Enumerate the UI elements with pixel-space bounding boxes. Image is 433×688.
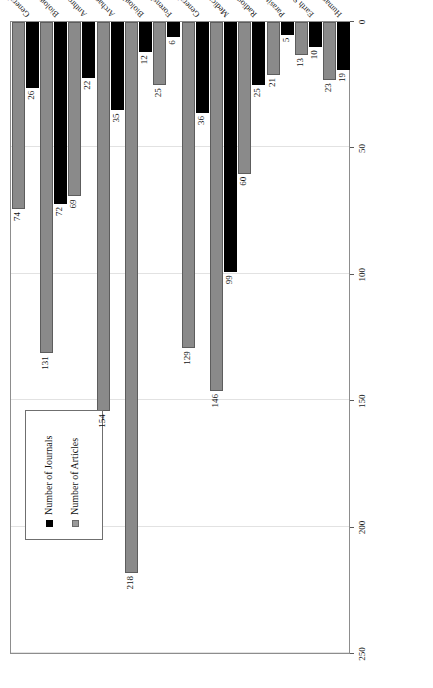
- bar-value-label: 154: [96, 414, 109, 433]
- bar-journals: [281, 22, 294, 35]
- bar-chart-figure: 050100150200250 General ScienceBiology/C…: [0, 0, 433, 688]
- bar-value-label: 35: [110, 113, 123, 132]
- bar-articles: [40, 22, 53, 353]
- x-tick-label: 200: [358, 508, 367, 548]
- bar-journals: [224, 22, 237, 272]
- gridline: [11, 273, 349, 274]
- bar-journals: [309, 22, 322, 47]
- bar-journals: [167, 22, 180, 37]
- bar-value-label: 129: [181, 351, 194, 370]
- bar-value-label: 5: [280, 38, 293, 57]
- bar-journals: [196, 22, 209, 113]
- bar-journals: [26, 22, 39, 88]
- bar-value-label: 6: [166, 40, 179, 59]
- tick-mark: [350, 147, 354, 148]
- legend-swatch-articles-icon: [72, 520, 79, 527]
- x-tick-label: 250: [358, 634, 367, 674]
- bar-articles: [97, 22, 110, 411]
- x-tick-label: 50: [358, 128, 367, 168]
- bar-value-label: 146: [209, 394, 222, 413]
- chart-legend: Number of JournalsNumber of Articles: [25, 410, 103, 540]
- bar-articles: [125, 22, 138, 573]
- legend-label: Number of Articles: [70, 438, 80, 515]
- bar-value-label: 22: [81, 81, 94, 100]
- bar-articles: [68, 22, 81, 196]
- legend-item-articles: Number of Articles: [70, 438, 80, 527]
- bar-value-label: 25: [152, 88, 165, 107]
- bar-value-label: 13: [294, 58, 307, 77]
- legend-swatch-journals-icon: [46, 520, 53, 527]
- category-label: Forensic: [146, 0, 173, 19]
- bar-value-label: 131: [39, 356, 52, 375]
- tick-mark: [350, 274, 354, 275]
- x-tick-label: 150: [358, 381, 367, 421]
- chart-rotation-wrapper: 050100150200250 General ScienceBiology/C…: [0, 0, 433, 688]
- category-label: General Science: [0, 0, 31, 19]
- bar-value-label: 21: [266, 78, 279, 97]
- bar-articles: [182, 22, 195, 348]
- bar-articles: [267, 22, 280, 75]
- tick-mark: [350, 400, 354, 401]
- tick-mark: [350, 527, 354, 528]
- bar-value-label: 25: [251, 88, 264, 107]
- x-tick-label: 100: [358, 255, 367, 295]
- bar-articles: [12, 22, 25, 209]
- tick-mark: [350, 21, 354, 22]
- bar-value-label: 99: [223, 275, 236, 294]
- category-label: Humanities: [309, 0, 343, 19]
- bar-value-label: 72: [53, 207, 66, 226]
- bar-articles: [210, 22, 223, 391]
- bar-value-label: 60: [237, 177, 250, 196]
- bar-articles: [238, 22, 251, 174]
- bar-value-label: 26: [25, 91, 38, 110]
- legend-label: Number of Journals: [44, 436, 54, 515]
- bar-value-label: 74: [11, 212, 24, 231]
- bar-journals: [111, 22, 124, 110]
- bar-value-label: 36: [195, 116, 208, 135]
- legend-item-journals: Number of Journals: [44, 436, 54, 527]
- bar-journals: [82, 22, 95, 78]
- gridline: [11, 652, 349, 653]
- bar-journals: [139, 22, 152, 52]
- bar-articles: [295, 22, 308, 55]
- bar-value-label: 23: [322, 83, 335, 102]
- bar-articles: [153, 22, 166, 85]
- bar-value-label: 10: [308, 50, 321, 69]
- bar-value-label: 218: [124, 576, 137, 595]
- plot-area: [10, 21, 350, 654]
- bar-journals: [54, 22, 67, 204]
- tick-mark: [350, 653, 354, 654]
- x-tick-label: 0: [358, 2, 367, 42]
- bar-articles: [323, 22, 336, 80]
- bar-journals: [337, 22, 350, 70]
- bar-journals: [252, 22, 265, 85]
- bar-value-label: 12: [138, 55, 151, 74]
- bar-value-label: 69: [67, 199, 80, 218]
- gridline: [11, 399, 349, 400]
- bar-value-label: 19: [336, 73, 349, 92]
